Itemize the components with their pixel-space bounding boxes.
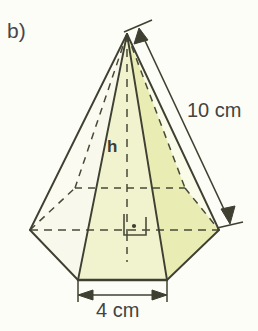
part-label: b) [7, 20, 26, 41]
base-dimension-arrow-right [152, 290, 167, 300]
base-length-label: 4 cm [96, 300, 139, 320]
right-angle-dot [132, 224, 136, 228]
slant-dimension-arrow-bottom [221, 206, 235, 224]
hexagonal-pyramid-drawing [0, 0, 258, 331]
figure-canvas: b) 10 cm 4 cm h [0, 0, 258, 331]
slant-length-label: 10 cm [187, 100, 241, 120]
height-label: h [107, 138, 117, 155]
pyramid-faces [30, 34, 219, 280]
base-dimension-arrow-left [78, 290, 93, 300]
